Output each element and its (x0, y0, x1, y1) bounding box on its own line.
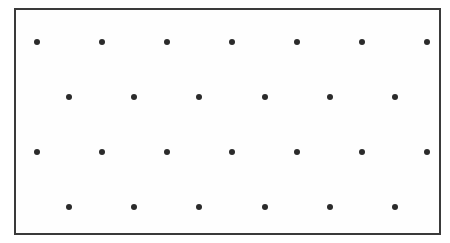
lattice-dot (327, 204, 333, 210)
lattice-row-4 (16, 10, 439, 233)
figure-canvas (0, 0, 450, 243)
lattice-dot (392, 204, 398, 210)
lattice-dot (131, 204, 137, 210)
lattice-dot (262, 204, 268, 210)
lattice-dot (196, 204, 202, 210)
lattice-frame (14, 8, 441, 235)
lattice-dot (66, 204, 72, 210)
